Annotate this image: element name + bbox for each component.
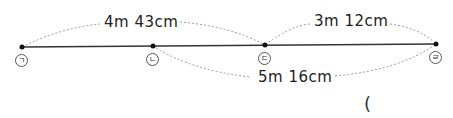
arc-d-r-right [390,24,436,44]
point-dot [20,45,25,50]
arc-n-r-right [335,44,436,76]
point-label-d: ㄷ [258,52,271,65]
point-dot [151,44,156,49]
distance-label-g-d: 4m 43cm [102,13,180,31]
arc-g-d-left [22,24,100,47]
arc-d-r-left [265,24,310,45]
main-line [22,44,436,47]
arc-n-r-left [153,46,250,77]
distance-label-d-r: 3m 12cm [312,12,390,30]
point-label-n: ㄴ [146,53,159,66]
distance-label-n-r: 5m 16cm [256,68,334,86]
point-label-r: ㄹ [429,51,442,64]
point-dot [434,42,439,47]
point-dot [263,43,268,48]
answer-paren: ( [364,93,371,114]
arc-g-d-right [180,22,265,45]
point-label-g: ㄱ [15,54,28,67]
